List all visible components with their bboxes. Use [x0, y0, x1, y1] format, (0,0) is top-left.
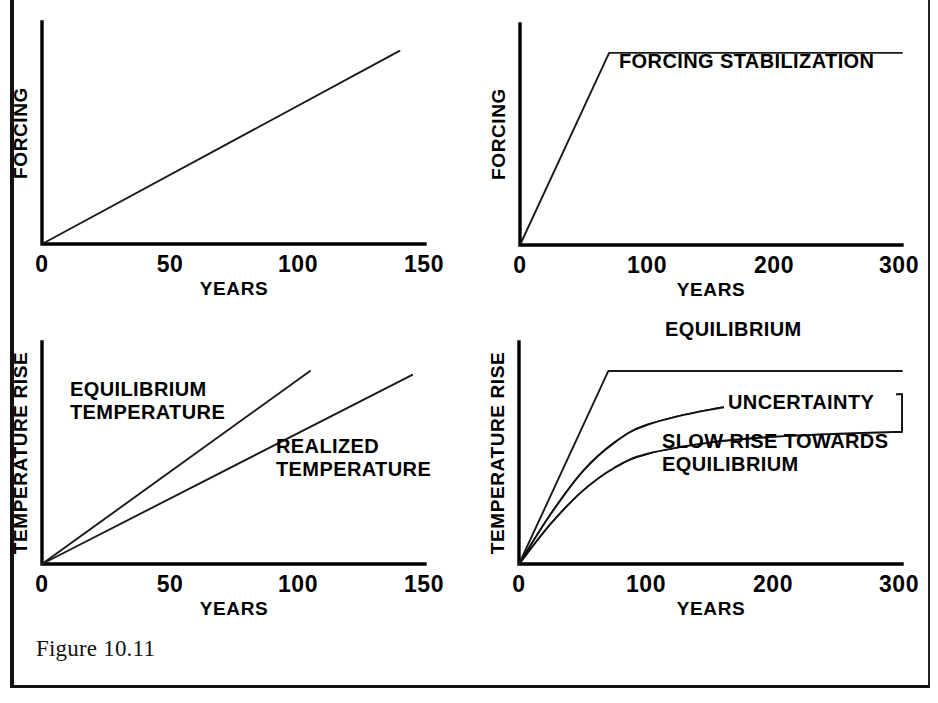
forcing-ramp-svg: 0 50 100 150 YEARS FORCING — [0, 0, 469, 300]
x-axis-title: YEARS — [677, 598, 745, 619]
x-tick-labels: 0 50 100 150 — [35, 251, 444, 277]
xtick-100: 100 — [627, 252, 667, 278]
figure-caption: Figure 10.11 — [36, 636, 155, 662]
label-realized-line2: TEMPERATURE — [276, 458, 431, 480]
x-tick-labels: 0 50 100 150 — [35, 571, 444, 597]
xtick-200: 200 — [753, 571, 793, 597]
x-axis-title: YEARS — [200, 278, 268, 299]
y-axis-title: TEMPERATURE RISE — [10, 352, 31, 554]
chart-panel-temperature-stabilization: EQUILIBRIUM UNCERTAINTY SLOW RISE TOWARD… — [469, 300, 938, 620]
series-labels: EQUILIBRIUM UNCERTAINTY SLOW RISE TOWARD… — [662, 318, 896, 475]
xtick-100: 100 — [626, 571, 666, 597]
xtick-100: 100 — [278, 251, 318, 277]
uncertainty-band-edges — [519, 394, 902, 564]
xtick-0: 0 — [512, 571, 525, 597]
y-axis-title: FORCING — [488, 88, 509, 180]
xtick-50: 50 — [157, 251, 184, 277]
axis-lines — [42, 22, 425, 244]
label-equilibrium-line2: TEMPERATURE — [70, 401, 225, 423]
label-equilibrium: EQUILIBRIUM — [665, 318, 802, 340]
label-uncertainty: UNCERTAINTY — [728, 391, 875, 413]
x-tick-labels: 0 100 200 300 — [513, 252, 919, 278]
y-axis-title: FORCING — [10, 87, 31, 179]
xtick-300: 300 — [879, 571, 919, 597]
plot-series — [520, 53, 902, 245]
x-axis-title: YEARS — [200, 598, 268, 619]
label-realized-line1: REALIZED — [276, 435, 379, 457]
temperature-ramp-svg: EQUILIBRIUM TEMPERATURE REALIZED TEMPERA… — [0, 300, 469, 620]
label-slow-rise-line2: EQUILIBRIUM — [662, 453, 799, 475]
series-line-forcing — [42, 51, 399, 244]
plot-axes — [42, 22, 425, 244]
temperature-stabilization-svg: EQUILIBRIUM UNCERTAINTY SLOW RISE TOWARD… — [469, 300, 938, 620]
xtick-0: 0 — [513, 252, 526, 278]
y-axis-title: TEMPERATURE RISE — [487, 352, 508, 554]
xtick-0: 0 — [35, 251, 48, 277]
xtick-150: 150 — [404, 251, 444, 277]
figure-container: 0 50 100 150 YEARS FORCING FORCING STABI… — [0, 0, 938, 703]
label-slow-rise-line1: SLOW RISE TOWARDS — [662, 430, 888, 452]
xtick-100: 100 — [278, 571, 318, 597]
x-tick-labels: 0 100 200 300 — [512, 571, 919, 597]
label-forcing-stabilization: FORCING STABILIZATION — [619, 50, 874, 72]
series-line-forcing — [520, 53, 902, 245]
chart-panel-forcing-stabilization: FORCING STABILIZATION 0 100 200 300 YEAR… — [469, 0, 938, 300]
xtick-0: 0 — [35, 571, 48, 597]
xtick-150: 150 — [404, 571, 444, 597]
xtick-200: 200 — [754, 252, 794, 278]
forcing-stabilization-svg: FORCING STABILIZATION 0 100 200 300 YEAR… — [469, 0, 938, 300]
chart-panel-forcing-ramp: 0 50 100 150 YEARS FORCING — [0, 0, 469, 300]
xtick-300: 300 — [879, 252, 919, 278]
label-equilibrium-line1: EQUILIBRIUM — [70, 378, 207, 400]
plot-series — [42, 51, 399, 244]
panel-grid: 0 50 100 150 YEARS FORCING FORCING STABI… — [0, 0, 938, 703]
chart-panel-temperature-ramp: EQUILIBRIUM TEMPERATURE REALIZED TEMPERA… — [0, 300, 469, 620]
x-axis-title: YEARS — [677, 279, 745, 300]
xtick-50: 50 — [157, 571, 184, 597]
